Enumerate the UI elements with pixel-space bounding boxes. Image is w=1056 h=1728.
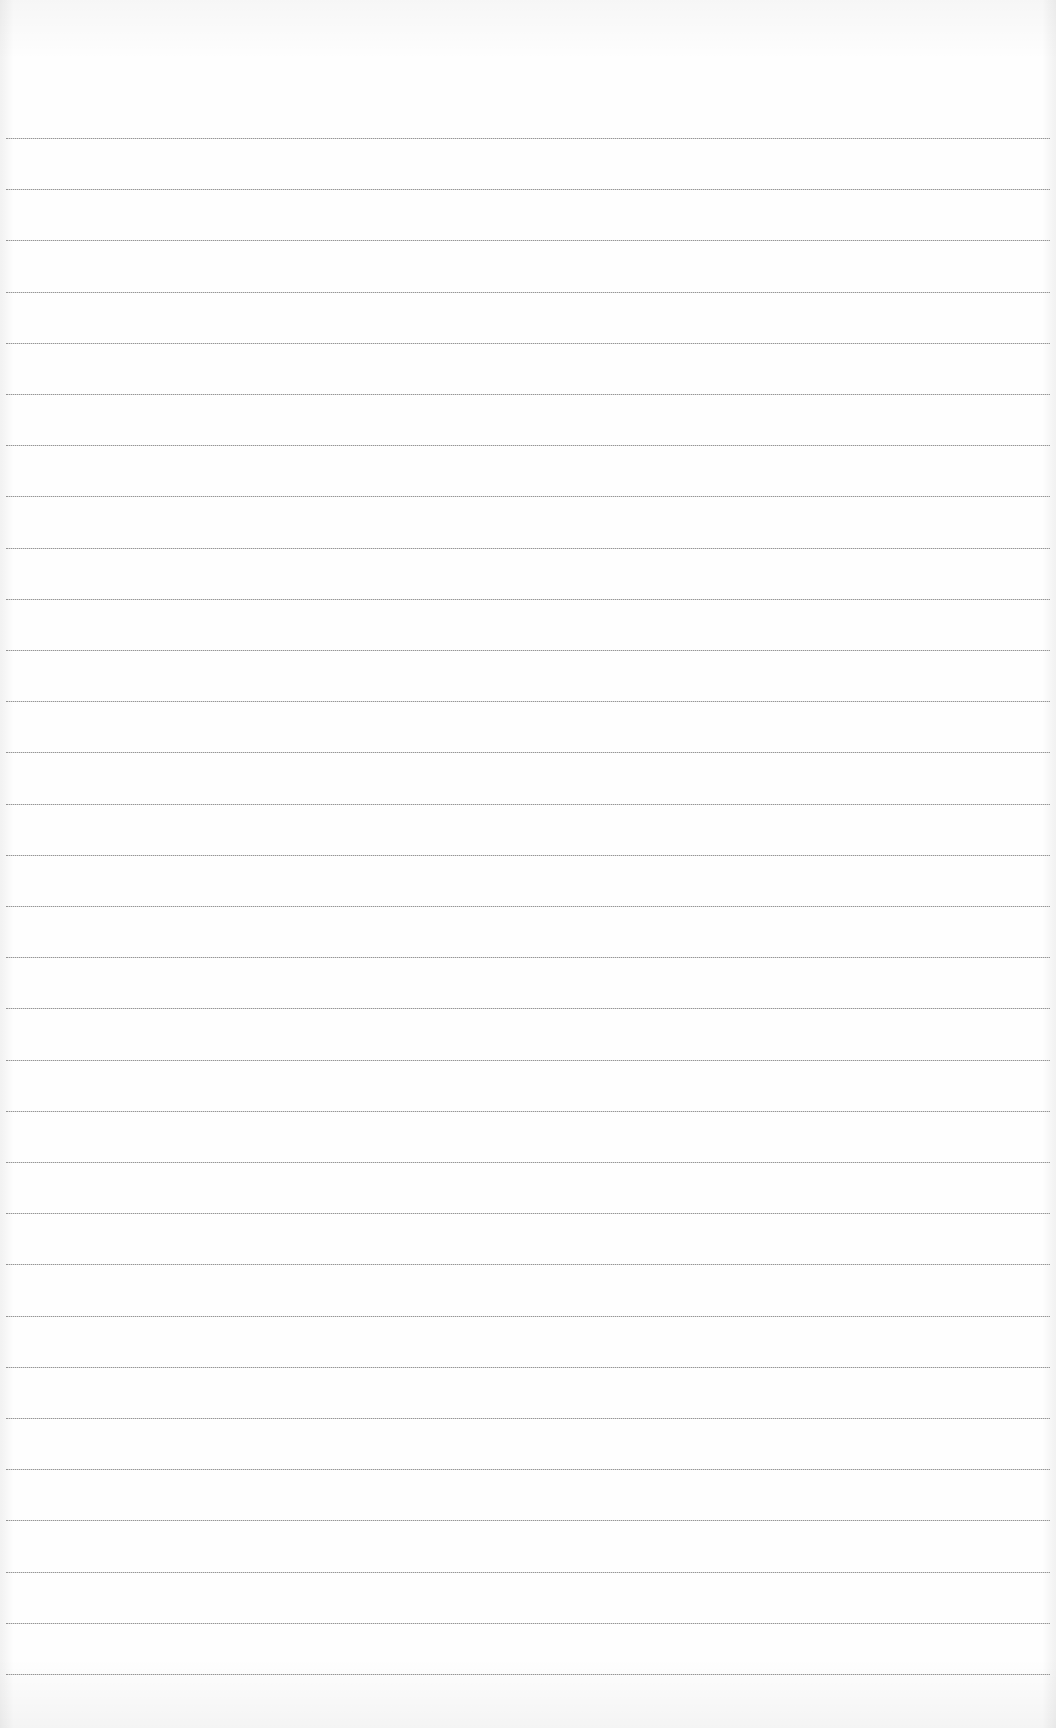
ruled-line	[6, 1316, 1050, 1317]
ruled-line	[6, 1469, 1050, 1470]
ruled-line	[6, 650, 1050, 651]
ruled-line	[6, 1111, 1050, 1112]
ruled-line	[6, 394, 1050, 395]
ruled-line	[6, 496, 1050, 497]
ruled-line	[6, 1367, 1050, 1368]
ruled-line	[6, 343, 1050, 344]
ruled-line	[6, 1674, 1050, 1675]
ruled-line	[6, 240, 1050, 241]
ruled-line	[6, 804, 1050, 805]
ruled-line	[6, 701, 1050, 702]
ruled-line	[6, 906, 1050, 907]
ruled-line	[6, 138, 1050, 139]
ruled-line	[6, 1060, 1050, 1061]
ruled-line	[6, 292, 1050, 293]
ruled-line	[6, 752, 1050, 753]
ruled-line	[6, 855, 1050, 856]
ruled-line	[6, 957, 1050, 958]
ruled-paper-sheet	[0, 0, 1056, 1728]
ruled-line	[6, 1008, 1050, 1009]
ruled-line	[6, 1213, 1050, 1214]
ruled-line	[6, 599, 1050, 600]
ruled-line	[6, 189, 1050, 190]
ruled-line	[6, 548, 1050, 549]
ruled-line	[6, 445, 1050, 446]
ruled-line	[6, 1623, 1050, 1624]
ruled-line	[6, 1520, 1050, 1521]
ruled-line	[6, 1572, 1050, 1573]
ruled-line	[6, 1162, 1050, 1163]
ruled-line	[6, 1418, 1050, 1419]
ruled-line	[6, 1264, 1050, 1265]
